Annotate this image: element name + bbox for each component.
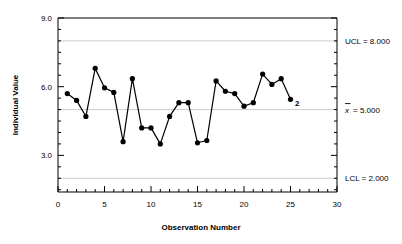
x-tick-label: 10	[147, 200, 156, 209]
data-point	[232, 91, 237, 96]
data-point	[139, 125, 144, 130]
chart-svg: 3.06.09.0 051015202530 UCL = 8.000x= 5.0…	[0, 0, 402, 244]
data-point	[121, 139, 126, 144]
data-point	[74, 98, 79, 103]
data-point	[176, 100, 181, 105]
data-point	[111, 90, 116, 95]
data-point	[279, 76, 284, 81]
violation-point-label: 2	[295, 99, 300, 108]
limit-label-ucl: UCL = 8.000	[345, 37, 390, 46]
data-point	[167, 114, 172, 119]
data-point	[214, 78, 219, 83]
center-line-value: = 5.000	[353, 106, 380, 115]
data-point	[241, 104, 246, 109]
x-axis-title: Observation Number	[161, 223, 240, 232]
data-point	[130, 76, 135, 81]
y-axis-title: Individual Value	[11, 74, 20, 135]
y-tick-label: 3.0	[41, 151, 53, 160]
x-tick-label: 15	[193, 200, 202, 209]
data-point	[65, 91, 70, 96]
data-point	[260, 71, 265, 76]
data-point	[148, 125, 153, 130]
data-point	[288, 97, 293, 102]
x-tick-label: 0	[56, 200, 61, 209]
limit-label-lcl: LCL = 2.000	[345, 174, 389, 183]
data-point	[251, 100, 256, 105]
y-tick-label: 9.0	[41, 14, 53, 23]
x-tick-label: 25	[286, 200, 295, 209]
data-point	[204, 138, 209, 143]
data-point	[93, 66, 98, 71]
data-point	[223, 89, 228, 94]
data-point	[195, 140, 200, 145]
data-point	[269, 82, 274, 87]
data-point	[83, 114, 88, 119]
data-point	[186, 100, 191, 105]
annotations-group: 2	[295, 99, 300, 108]
y-tick-label: 6.0	[41, 83, 53, 92]
data-point	[102, 85, 107, 90]
x-tick-label: 30	[333, 200, 342, 209]
x-tick-label: 20	[240, 200, 249, 209]
control-chart: 3.06.09.0 051015202530 UCL = 8.000x= 5.0…	[0, 0, 402, 244]
x-tick-label: 5	[102, 200, 107, 209]
data-point	[158, 141, 163, 146]
